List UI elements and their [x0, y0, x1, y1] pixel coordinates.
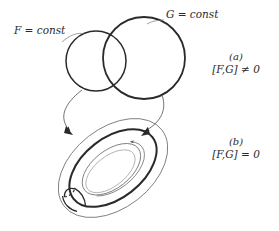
figure-root: F = const G = const (a) [F,G] ≠ 0 (b) [F…	[0, 0, 279, 231]
circle-f-const	[66, 31, 126, 91]
connector-arc-right	[145, 95, 164, 131]
caption-panel-a: (a) [F,G] ≠ 0	[200, 51, 272, 75]
caption-b-tag: (b)	[200, 136, 272, 147]
caption-a-tag: (a)	[200, 51, 272, 62]
circle-g-const	[103, 17, 185, 99]
caption-panel-b: (b) [F,G] = 0	[200, 136, 272, 160]
torus-outer-ellipse	[40, 98, 187, 231]
label-f-const: F = const	[14, 24, 65, 36]
panel-a-circles	[62, 17, 185, 99]
caption-a-expression: [F,G] ≠ 0	[200, 63, 272, 75]
connector-arc-left	[64, 90, 82, 131]
torus-ridge-ellipse	[55, 114, 171, 223]
torus-inner-ellipse	[73, 133, 150, 205]
panel-b-torus	[40, 98, 187, 231]
connector-arcs	[64, 90, 164, 131]
label-g-const: G = const	[166, 8, 218, 20]
meridian-arrow-head	[64, 126, 73, 135]
longitude-cycle-arrow	[83, 138, 154, 203]
caption-b-expression: [F,G] = 0	[200, 148, 272, 160]
